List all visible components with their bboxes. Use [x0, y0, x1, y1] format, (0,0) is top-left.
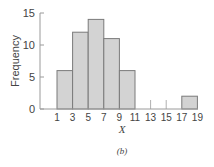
x-tick-label: 9 [117, 112, 123, 123]
histogram-bar [119, 71, 135, 109]
y-axis-label: Frequency [9, 35, 21, 87]
x-tick-label: 17 [176, 112, 188, 123]
x-tick-label: 7 [101, 112, 107, 123]
x-tick-label: 3 [70, 112, 76, 123]
x-tick-label: 19 [192, 112, 204, 123]
x-tick-label: 15 [161, 112, 173, 123]
y-tick-label: 5 [29, 71, 35, 83]
y-ticks: 051015 [23, 7, 44, 115]
histogram-chart: 051015 135791113151719 Frequency X (b) [0, 0, 214, 167]
y-tick-label: 15 [23, 7, 35, 19]
histogram-bar [104, 39, 120, 109]
x-tick-labels: 135791113151719 [54, 112, 203, 123]
x-tick-label: 11 [130, 112, 141, 123]
zero-bin-ticks [151, 100, 167, 109]
histogram-bar [57, 71, 73, 109]
y-tick-label: 10 [23, 39, 35, 51]
x-axis-label: X [118, 123, 127, 135]
histogram-bar [88, 19, 104, 109]
figure-caption: (b) [117, 146, 128, 156]
histogram-bar [73, 32, 89, 109]
y-tick-label: 0 [29, 103, 35, 115]
bars-group [57, 19, 197, 109]
histogram-bar [182, 96, 198, 109]
x-tick-label: 5 [85, 112, 91, 123]
x-tick-label: 13 [145, 112, 157, 123]
x-tick-label: 1 [54, 112, 60, 123]
